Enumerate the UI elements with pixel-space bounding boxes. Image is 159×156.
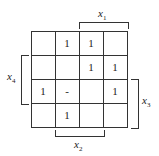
- x1-bracket: [79, 22, 129, 29]
- cell-r2-c0: 1: [31, 79, 56, 104]
- cell-r2-c2: [79, 79, 104, 104]
- cell-r2-c1: -: [55, 79, 80, 104]
- x3-label: x3: [142, 94, 150, 109]
- x2-label-sub: 2: [79, 145, 83, 153]
- cell-r1-c2: 1: [79, 55, 104, 80]
- cell-r1-c0: [31, 55, 56, 80]
- cell-r0-c1: 1: [55, 31, 80, 56]
- cell-r0-c2: 1: [79, 31, 104, 56]
- cell-r3-c2: [79, 103, 104, 128]
- cell-r3-c3: [103, 103, 128, 128]
- x2-bracket: [55, 130, 105, 137]
- x1-label: x1: [98, 7, 106, 22]
- cell-r2-c3: 1: [103, 79, 128, 104]
- cell-r3-c0: [31, 103, 56, 128]
- x2-label: x2: [74, 138, 82, 153]
- cell-r0-c3: [103, 31, 128, 56]
- x4-label-sub: 4: [12, 77, 16, 85]
- cell-r3-c1: 1: [55, 103, 80, 128]
- cell-r1-c1: [55, 55, 80, 80]
- x3-bracket: [131, 79, 139, 129]
- cell-r0-c0: [31, 31, 56, 56]
- cell-r1-c3: 1: [103, 55, 128, 80]
- x4-label: x4: [7, 70, 15, 85]
- x3-label-sub: 3: [147, 101, 151, 109]
- karnaugh-map: 1 1 1 1 1 - 1 1: [31, 31, 127, 127]
- x1-label-sub: 1: [103, 14, 107, 22]
- x4-bracket: [21, 55, 29, 105]
